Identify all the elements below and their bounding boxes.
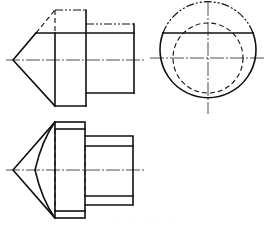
top-view [6, 122, 145, 218]
engineering-drawing [0, 0, 267, 226]
front-cone-outline [13, 33, 55, 106]
front-view [6, 10, 144, 106]
front-cone-hidden-edge [36, 10, 55, 33]
side-view [150, 2, 265, 114]
watermark-caption: · · · · · · · · · · · · · · · [100, 216, 182, 222]
